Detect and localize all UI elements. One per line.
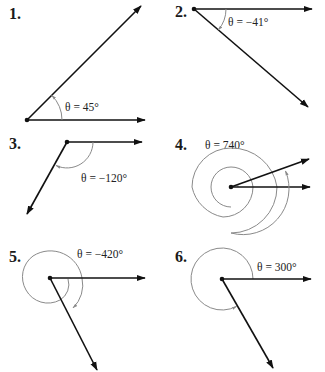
panel-number: 1. bbox=[9, 5, 21, 22]
angle-label: θ = −120° bbox=[81, 172, 127, 184]
panel-number: 4. bbox=[175, 136, 187, 153]
vertex-point bbox=[25, 118, 30, 123]
vertex-point bbox=[192, 7, 197, 12]
angle-label: θ = 45° bbox=[65, 101, 99, 113]
spiral-arc bbox=[192, 148, 277, 233]
panel-1: 1. θ = 45° bbox=[9, 5, 145, 122]
angle-arc bbox=[218, 9, 226, 30]
angle-label: θ = 300° bbox=[257, 261, 297, 273]
spiral-arc bbox=[22, 251, 82, 308]
angle-label: θ = −41° bbox=[228, 16, 269, 28]
vertex-point bbox=[220, 277, 225, 282]
panel-number: 3. bbox=[9, 135, 21, 152]
angle-arc bbox=[56, 142, 93, 168]
spiral-arrow bbox=[231, 171, 289, 235]
angle-diagrams: 1. θ = 45° 2. θ = −41° 3. θ = −120° 4. θ… bbox=[0, 0, 325, 372]
panel-number: 2. bbox=[175, 3, 187, 20]
terminal-side-ray bbox=[27, 142, 67, 214]
vertex-point bbox=[229, 185, 234, 190]
panel-number: 6. bbox=[175, 248, 187, 265]
vertex-point bbox=[48, 276, 53, 281]
angle-arc bbox=[52, 95, 62, 120]
terminal-side-ray bbox=[231, 159, 309, 187]
panel-3: 3. θ = −120° bbox=[9, 135, 142, 214]
angle-label: θ = −420° bbox=[77, 248, 123, 260]
panel-number: 5. bbox=[9, 248, 21, 265]
angle-label: θ = 740° bbox=[205, 139, 245, 151]
panel-6: 6. θ = 300° bbox=[175, 248, 311, 368]
vertex-point bbox=[65, 140, 70, 145]
terminal-side-ray bbox=[50, 278, 97, 370]
panel-5: 5. θ = −420° bbox=[9, 248, 145, 370]
panel-4: 4. θ = 740° bbox=[175, 136, 310, 235]
panel-2: 2. θ = −41° bbox=[175, 3, 312, 107]
terminal-side-ray bbox=[222, 279, 273, 368]
